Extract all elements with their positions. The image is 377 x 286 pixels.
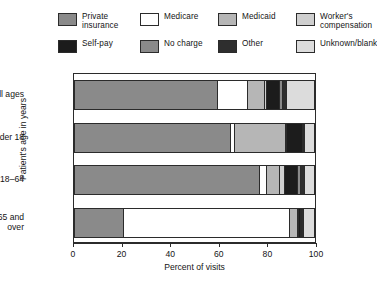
legend-item-medicare: Medicare [140, 12, 198, 26]
legend-item-unknown-blank: Unknown/blank [296, 39, 377, 53]
x-axis-tick [267, 243, 268, 247]
bar-segment[interactable] [75, 166, 259, 194]
bar-row [74, 123, 315, 153]
bar-segment[interactable] [75, 81, 217, 109]
bar-segment[interactable] [284, 166, 297, 194]
x-axis-tick-label: 20 [117, 249, 127, 259]
stacked-bar[interactable] [74, 80, 315, 110]
legend-label-medicare: Medicare [164, 12, 198, 21]
legend-label-unknown-blank: Unknown/blank [320, 39, 377, 48]
x-axis-title: Percent of visits [73, 262, 316, 272]
legend-swatch-private-insurance [58, 13, 77, 26]
x-axis-line [73, 243, 316, 244]
legend-swatch-workers-compensation [296, 13, 315, 26]
bar-segment[interactable] [123, 209, 289, 237]
legend-row-1: Private insurance Medicare Medicaid Work… [58, 12, 346, 36]
legend-swatch-other [218, 40, 237, 53]
x-axis-tick-label: 60 [214, 249, 224, 259]
x-axis-tick [219, 243, 220, 247]
legend-swatch-medicare [140, 13, 159, 26]
x-axis-tick-label: 40 [165, 249, 175, 259]
legend-label-private-insurance: Private insurance [82, 12, 118, 31]
bar-segment[interactable] [75, 209, 123, 237]
x-axis-tick-label: 80 [263, 249, 273, 259]
legend-item-self-pay: Self-pay [58, 39, 113, 53]
bar-segment[interactable] [286, 124, 302, 152]
plot-area [73, 73, 316, 243]
legend-row-2: Self-pay No charge Other Unknown/blank [58, 39, 346, 63]
legend-label-medicaid: Medicaid [242, 12, 276, 21]
bar-segment[interactable] [304, 166, 314, 194]
legend-item-workers-compensation: Worker's compensation [296, 12, 372, 31]
x-axis-tick-label: 100 [309, 249, 323, 259]
stacked-bar[interactable] [74, 165, 315, 195]
y-axis-title: Patient's age in years [18, 64, 28, 214]
bar-row [74, 80, 315, 110]
bar-row [74, 165, 315, 195]
y-axis-category-label: 65 and over [0, 212, 24, 232]
x-axis-tick [73, 243, 74, 247]
legend-label-other: Other [242, 39, 263, 48]
bar-segment[interactable] [303, 209, 314, 237]
x-axis-tick [122, 243, 123, 247]
legend-label-self-pay: Self-pay [82, 39, 113, 48]
legend-label-workers-compensation: Worker's compensation [320, 12, 372, 31]
legend-item-other: Other [218, 39, 263, 53]
x-axis-tick [316, 243, 317, 247]
x-axis-tick-label: 0 [71, 249, 76, 259]
chart-legend: Private insurance Medicare Medicaid Work… [58, 12, 346, 64]
legend-label-no-charge: No charge [164, 39, 203, 48]
legend-swatch-no-charge [140, 40, 159, 53]
bar-segment[interactable] [217, 81, 247, 109]
legend-item-private-insurance: Private insurance [58, 12, 118, 31]
legend-swatch-self-pay [58, 40, 77, 53]
stacked-bar[interactable] [74, 208, 315, 238]
stacked-bar[interactable] [74, 123, 315, 153]
bar-segment[interactable] [247, 81, 264, 109]
bar-row [74, 208, 315, 238]
x-axis-tick [170, 243, 171, 247]
bar-segment[interactable] [75, 124, 230, 152]
bar-segment[interactable] [286, 81, 313, 109]
bar-segment[interactable] [266, 81, 279, 109]
legend-swatch-unknown-blank [296, 40, 315, 53]
legend-swatch-medicaid [218, 13, 237, 26]
legend-item-no-charge: No charge [140, 39, 203, 53]
bar-segment[interactable] [289, 209, 297, 237]
legend-item-medicaid: Medicaid [218, 12, 276, 26]
bar-segment[interactable] [234, 124, 285, 152]
bar-segment[interactable] [259, 166, 266, 194]
bar-segment[interactable] [266, 166, 279, 194]
bar-segment[interactable] [304, 124, 314, 152]
